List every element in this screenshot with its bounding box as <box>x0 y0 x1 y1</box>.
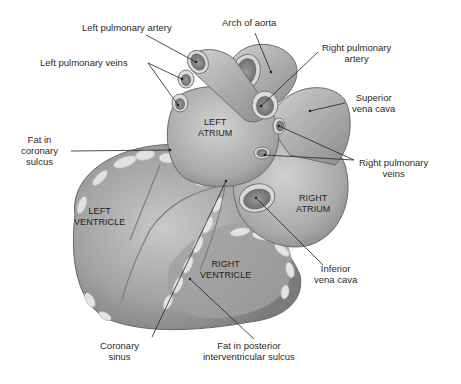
heart-posterior-diagram: Left pulmonary artery Arch of aorta Righ… <box>0 0 461 384</box>
label-fat-in-coronary-sulcus: Fat in coronary sulcus <box>21 134 58 167</box>
label-coronary-sinus: Coronary sinus <box>100 340 139 362</box>
label-left-pulmonary-veins: Left pulmonary veins <box>40 57 128 68</box>
label-inferior-vena-cava: Inferior vena cava <box>314 263 357 285</box>
label-arch-of-aorta: Arch of aorta <box>222 17 276 28</box>
label-right-pulmonary-artery: Right pulmonary artery <box>322 42 391 64</box>
label-superior-vena-cava: Superior vena cava <box>352 92 395 114</box>
label-fat-in-posterior-interventricular-sulcus: Fat in posterior interventricular sulcus <box>203 340 295 362</box>
label-left-ventricle: LEFT VENTRICLE <box>74 206 125 227</box>
label-right-ventricle: RIGHT VENTRICLE <box>200 259 251 280</box>
label-left-pulmonary-artery: Left pulmonary artery <box>82 22 172 33</box>
label-right-pulmonary-veins: Right pulmonary veins <box>359 157 428 179</box>
label-left-atrium: LEFT ATRIUM <box>198 117 232 138</box>
label-right-atrium: RIGHT ATRIUM <box>296 193 330 214</box>
